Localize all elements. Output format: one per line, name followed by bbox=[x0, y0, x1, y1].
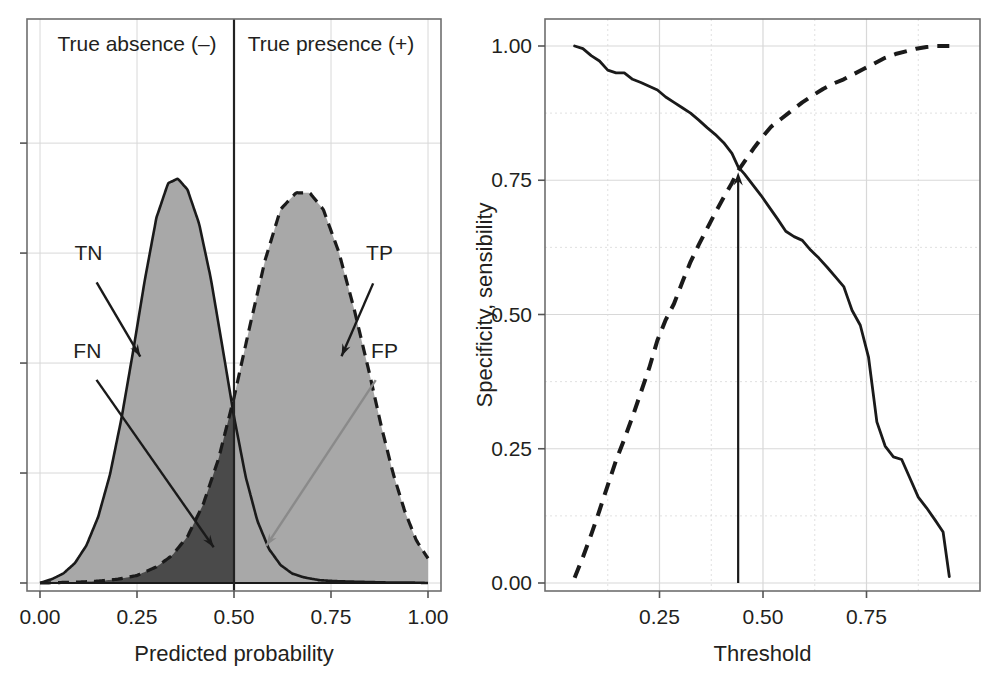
xtick-label-1: 0.50 bbox=[743, 605, 784, 628]
right-gridlines bbox=[545, 19, 980, 591]
left-xaxis-title: Predicted probability bbox=[134, 641, 333, 666]
xtick-label-0: 0.00 bbox=[20, 605, 61, 628]
xtick-label-2: 0.50 bbox=[214, 605, 255, 628]
ytick-label-4: 1.00 bbox=[491, 34, 532, 57]
xtick-label-3: 0.75 bbox=[311, 605, 352, 628]
sensibility-curve bbox=[575, 46, 950, 577]
region-label-true-presence: True presence (+) bbox=[248, 32, 415, 55]
figure-container: 0.000.250.500.751.00Predicted probabilit… bbox=[0, 0, 997, 691]
region-label-true-absence: True absence (–) bbox=[57, 32, 216, 55]
right-axis-ticks bbox=[538, 46, 867, 598]
right-threshold-panel: 0.250.500.750.000.250.500.751.00Threshol… bbox=[470, 0, 997, 691]
left-plot-area bbox=[40, 19, 428, 591]
right-yaxis-title: Specificity, sensibility bbox=[472, 203, 497, 408]
ytick-label-2: 0.50 bbox=[491, 303, 532, 326]
xtick-label-0: 0.25 bbox=[639, 605, 680, 628]
right-xaxis-title: Threshold bbox=[714, 641, 812, 666]
left-panel-svg: 0.000.250.500.751.00Predicted probabilit… bbox=[0, 0, 470, 691]
annotation-label-TP: TP bbox=[366, 241, 393, 264]
tp-region bbox=[234, 193, 428, 583]
xtick-label-2: 0.75 bbox=[846, 605, 887, 628]
xtick-label-4: 1.00 bbox=[408, 605, 449, 628]
right-panel-svg: 0.250.500.750.000.250.500.751.00Threshol… bbox=[470, 0, 997, 691]
specificity-curve bbox=[575, 46, 950, 578]
ytick-label-1: 0.25 bbox=[491, 437, 532, 460]
ytick-label-0: 0.00 bbox=[491, 571, 532, 594]
ytick-label-3: 0.75 bbox=[491, 168, 532, 191]
annotation-arrow-line-TN bbox=[97, 282, 141, 356]
annotation-label-FP: FP bbox=[371, 339, 398, 362]
left-density-panel: 0.000.250.500.751.00Predicted probabilit… bbox=[0, 0, 470, 691]
xtick-label-1: 0.25 bbox=[117, 605, 158, 628]
annotation-label-TN: TN bbox=[75, 241, 103, 264]
annotation-label-FN: FN bbox=[73, 339, 101, 362]
